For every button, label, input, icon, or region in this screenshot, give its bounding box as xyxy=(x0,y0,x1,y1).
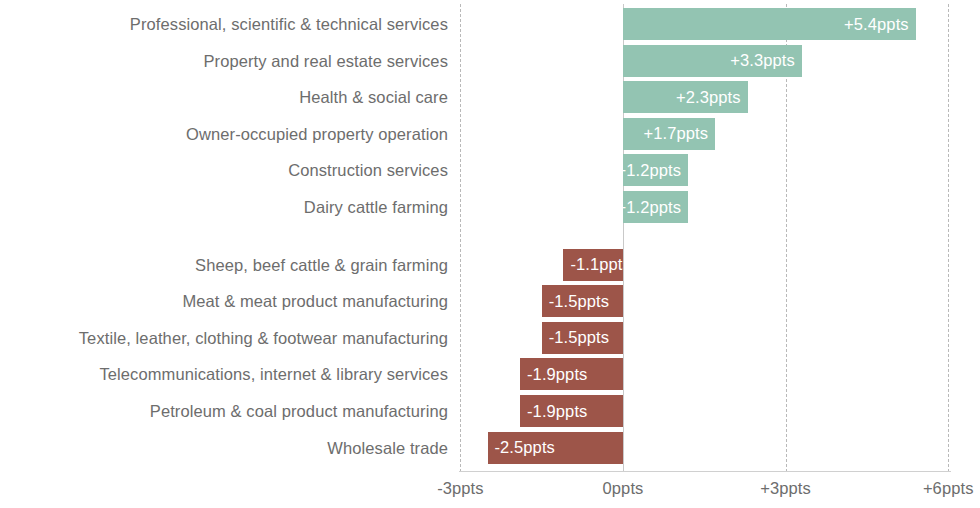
chart-row: Dairy cattle farming+1.2ppts xyxy=(0,191,980,223)
bar[interactable]: +2.3ppts xyxy=(623,81,748,113)
bar-value-label: -1.9ppts xyxy=(520,402,587,421)
x-tick-label: +3ppts xyxy=(760,479,811,498)
chart-row: Petroleum & coal product manufacturing-1… xyxy=(0,395,980,427)
bar[interactable]: +1.7ppts xyxy=(623,118,715,150)
bar-value-label: +2.3ppts xyxy=(676,88,748,107)
chart-row: Telecommunications, internet & library s… xyxy=(0,358,980,390)
bar[interactable]: +3.3ppts xyxy=(623,45,802,77)
category-label: Construction services xyxy=(0,154,448,186)
bar[interactable]: -2.5ppts xyxy=(488,432,624,464)
bar[interactable]: +1.2ppts xyxy=(623,191,688,223)
bar-value-label: +1.2ppts xyxy=(623,198,688,217)
category-label: Sheep, beef cattle & grain farming xyxy=(0,249,448,281)
axis-baseline xyxy=(459,471,951,472)
category-label: Dairy cattle farming xyxy=(0,191,448,223)
bar[interactable]: +1.2ppts xyxy=(623,154,688,186)
bar-value-label: -1.9ppts xyxy=(520,365,587,384)
bar-value-label: -2.5ppts xyxy=(488,438,555,457)
bar-value-label: +1.7ppts xyxy=(644,124,716,143)
chart-row: Property and real estate services+3.3ppt… xyxy=(0,45,980,77)
bar-value-label: +3.3ppts xyxy=(730,51,802,70)
x-tick-label: +6ppts xyxy=(923,479,974,498)
chart-row: Textile, leather, clothing & footwear ma… xyxy=(0,322,980,354)
x-tick-label: -3ppts xyxy=(437,479,483,498)
chart-row: Owner-occupied property operation+1.7ppt… xyxy=(0,118,980,150)
category-label: Health & social care xyxy=(0,81,448,113)
chart-row: Construction services+1.2ppts xyxy=(0,154,980,186)
category-label: Textile, leather, clothing & footwear ma… xyxy=(0,322,448,354)
chart-row: Meat & meat product manufacturing-1.5ppt… xyxy=(0,285,980,317)
category-label: Property and real estate services xyxy=(0,45,448,77)
bar[interactable]: -1.5ppts xyxy=(542,322,623,354)
plot-area: Professional, scientific & technical ser… xyxy=(0,0,980,472)
bar[interactable]: -1.9ppts xyxy=(520,395,623,427)
bar-value-label: -1.5ppts xyxy=(542,328,609,347)
bar-chart: Professional, scientific & technical ser… xyxy=(0,0,980,508)
category-label: Wholesale trade xyxy=(0,432,448,464)
chart-row: Wholesale trade-2.5ppts xyxy=(0,432,980,464)
chart-row: Professional, scientific & technical ser… xyxy=(0,8,980,40)
chart-row: Sheep, beef cattle & grain farming-1.1pp… xyxy=(0,249,980,281)
chart-row: Health & social care+2.3ppts xyxy=(0,81,980,113)
bar-value-label: -1.5ppts xyxy=(542,292,609,311)
bar[interactable]: -1.1ppts xyxy=(563,249,623,281)
bar[interactable]: -1.9ppts xyxy=(520,358,623,390)
category-label: Telecommunications, internet & library s… xyxy=(0,358,448,390)
category-label: Meat & meat product manufacturing xyxy=(0,285,448,317)
bar-value-label: +1.2ppts xyxy=(623,161,688,180)
category-label: Petroleum & coal product manufacturing xyxy=(0,395,448,427)
bar-value-label: -1.1ppts xyxy=(563,255,623,274)
category-label: Owner-occupied property operation xyxy=(0,118,448,150)
bar-value-label: +5.4ppts xyxy=(844,15,916,34)
bar[interactable]: -1.5ppts xyxy=(542,285,623,317)
bar[interactable]: +5.4ppts xyxy=(623,8,916,40)
category-label: Professional, scientific & technical ser… xyxy=(0,8,448,40)
x-tick-label: 0ppts xyxy=(603,479,644,498)
